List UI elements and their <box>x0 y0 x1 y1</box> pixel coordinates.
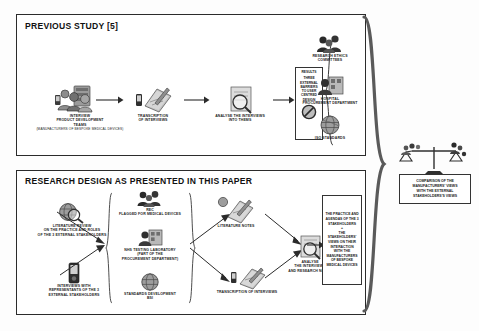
previous-study-title: PREVIOUS STUDY [5] <box>25 21 118 31</box>
arrow-interviews-to-stakeholders <box>60 245 108 277</box>
node-label: STANDARDS DEVELOPMENT BSI <box>112 292 188 301</box>
findings-box: THE PRACTICE AND AGENDAS OF THE 3 STAKEH… <box>322 195 362 285</box>
comparison-text: COMPARISON OF THE MANUFACTURERS' VIEWS W… <box>413 179 458 199</box>
node-label: HOSPITAL PROCUREMENT DEPARTMENT <box>291 97 369 106</box>
node-label: ISO STANDARDS <box>301 136 359 140</box>
node-label: TRANSCRIPTION OF INTERVIEWS <box>199 290 295 294</box>
notepad-globe-icon <box>205 196 267 224</box>
node-label: RESEARCH ETHICS COMMITTEES <box>296 54 364 63</box>
worker-building-icon <box>291 75 369 97</box>
committee-people-icon <box>111 190 189 208</box>
node-analyse-themes: ANALYSE THE INTERVIEWS INTO THEMS <box>206 84 274 123</box>
node-subnote: (manufacturers of bespoke medical device… <box>18 127 142 131</box>
comparison-box: COMPARISON OF THE MANUFACTURERS' VIEWS W… <box>399 174 471 204</box>
balance-scales-icon <box>398 141 470 175</box>
figure-canvas: PREVIOUS STUDY [5] INTERVIEW PRODUCT DEV… <box>0 0 479 331</box>
arrow-teams-to-transcription <box>96 95 124 105</box>
worker-building-icon <box>110 228 190 248</box>
node-literature-notes: LITERATURE NOTES <box>205 196 267 228</box>
node-iso-standards: ISO STANDARDS <box>301 114 359 140</box>
node-nhs-testing-laboratory: NHS TESTING LABORATORY (PART OF THE PROC… <box>110 228 190 261</box>
results-heading: RESULTS <box>301 70 316 74</box>
notepad-pen-icon <box>122 84 184 114</box>
globe-icon <box>112 272 188 292</box>
committee-people-icon <box>296 34 364 54</box>
findings-text: THE PRACTICE AND AGENDAS OF THE 3 STAKEH… <box>325 212 358 267</box>
node-rec-flagged: REC FLAGGED FOR MEDICAL DEVICES <box>111 190 189 217</box>
node-label: ANALYSE THE INTERVIEWS INTO THEMS <box>206 114 274 123</box>
node-research-ethics-committees: RESEARCH ETHICS COMMITTEES <box>296 34 364 63</box>
research-design-title: RESEARCH DESIGN AS PRESENTED IN THIS PAP… <box>25 176 252 186</box>
globe-icon <box>301 114 359 136</box>
node-transcription: TRANSCRIPTION OF INTERVIEWS <box>122 84 184 123</box>
node-label: LITERATURE NOTES <box>205 224 267 228</box>
node-label: NHS TESTING LABORATORY (PART OF THE PROC… <box>110 248 190 261</box>
node-hospital-procurement: HOSPITAL PROCUREMENT DEPARTMENT <box>291 75 369 106</box>
brace-combine-panels <box>362 14 390 314</box>
magnifier-doc-icon <box>206 84 274 114</box>
node-label: REC FLAGGED FOR MEDICAL DEVICES <box>111 208 189 217</box>
node-label: TRANSCRIPTION OF INTERVIEWS <box>122 114 184 123</box>
arrow-literature-to-stakeholders <box>57 212 109 246</box>
node-standards-development-bsi: STANDARDS DEVELOPMENT BSI <box>112 272 188 301</box>
